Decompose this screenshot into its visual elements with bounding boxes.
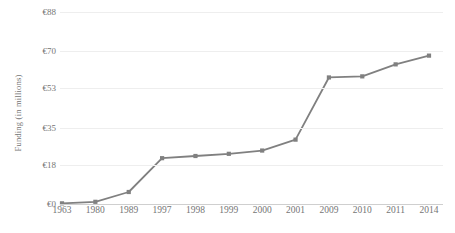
gridline (60, 51, 443, 52)
data-point-marker (193, 154, 197, 158)
y-axis-tick-labels: €0€18€35€53€70€88 (24, 0, 56, 233)
y-axis-tick-label: €70 (24, 46, 56, 56)
data-point-marker (427, 54, 431, 58)
gridline (60, 12, 443, 13)
data-point-marker (127, 190, 131, 194)
y-axis-title: Funding (in millions) (13, 48, 23, 178)
y-axis-tick-label: €88 (24, 7, 56, 17)
data-point-marker (360, 74, 364, 78)
data-point-marker (160, 156, 164, 160)
data-point-marker (227, 152, 231, 156)
x-axis-tick-labels: 1963198019891997199819992000200120092010… (60, 205, 443, 225)
series-line (62, 56, 429, 204)
gridline (60, 128, 443, 129)
data-series-funding (60, 12, 443, 204)
plot-area (60, 12, 443, 204)
data-point-marker (293, 138, 297, 142)
line-chart: Funding (in millions) €0€18€35€53€70€88 … (0, 0, 455, 233)
gridline (60, 165, 443, 166)
data-point-marker (327, 75, 331, 79)
data-point-marker (394, 62, 398, 66)
y-axis-tick-label: €18 (24, 160, 56, 170)
data-point-marker (260, 148, 264, 152)
y-axis-tick-label: €53 (24, 83, 56, 93)
x-axis-tick-label: 2014 (409, 205, 449, 215)
gridline (60, 88, 443, 89)
y-axis-tick-label: €35 (24, 123, 56, 133)
